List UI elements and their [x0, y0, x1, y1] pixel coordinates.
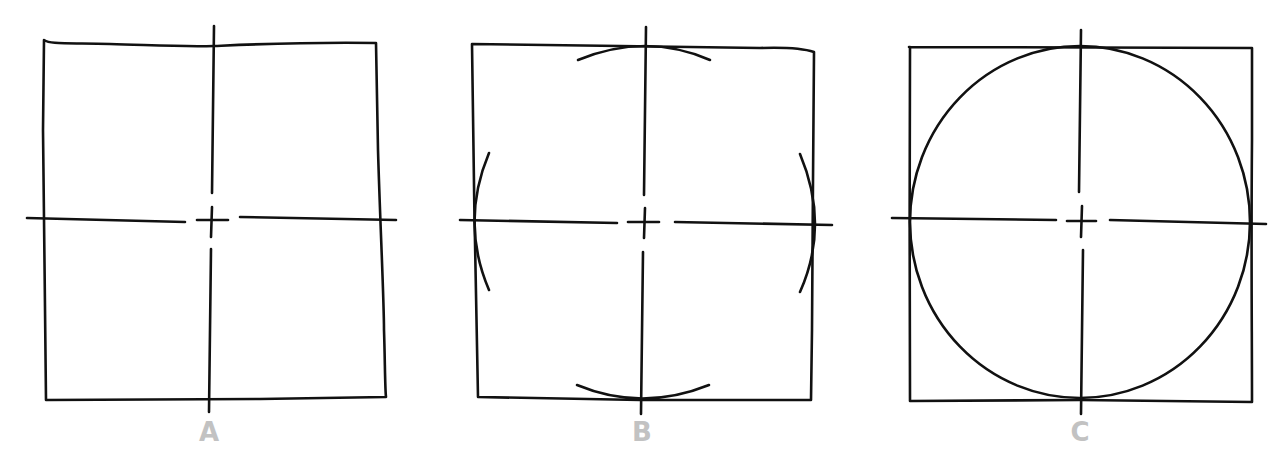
panel-a-center-mark — [197, 207, 228, 237]
panel-b-vertical-axis — [644, 27, 646, 195]
panel-b-center-mark — [628, 208, 659, 238]
panel-b-label: B — [632, 417, 652, 447]
panel-a-vertical-axis — [212, 26, 214, 193]
panel-b-horizontal-axis-right — [675, 222, 832, 225]
panel-a-vertical-axis-lower — [209, 249, 211, 412]
panel-b-horizontal-axis-left — [460, 220, 617, 223]
circle-construction-diagram: A B C — [0, 0, 1278, 460]
panel-c-label: C — [1070, 417, 1089, 447]
panel-b: B — [460, 27, 832, 447]
panel-a-horizontal-axis-left — [27, 218, 185, 222]
panel-b-bottom-arc — [577, 385, 709, 399]
panel-c-center-mark — [1067, 206, 1096, 237]
panel-b-vertical-axis-lower — [641, 252, 643, 414]
panel-a-label: A — [199, 417, 219, 447]
panel-c-horizontal-axis-right — [1110, 220, 1266, 224]
panel-a: A — [27, 26, 396, 447]
panel-a-horizontal-axis-right — [240, 217, 396, 220]
panel-c: C — [892, 30, 1266, 447]
panel-c-horizontal-axis-left — [892, 218, 1056, 220]
panel-c-vertical-axis — [1079, 30, 1081, 192]
panel-c-vertical-axis-lower — [1081, 250, 1083, 414]
